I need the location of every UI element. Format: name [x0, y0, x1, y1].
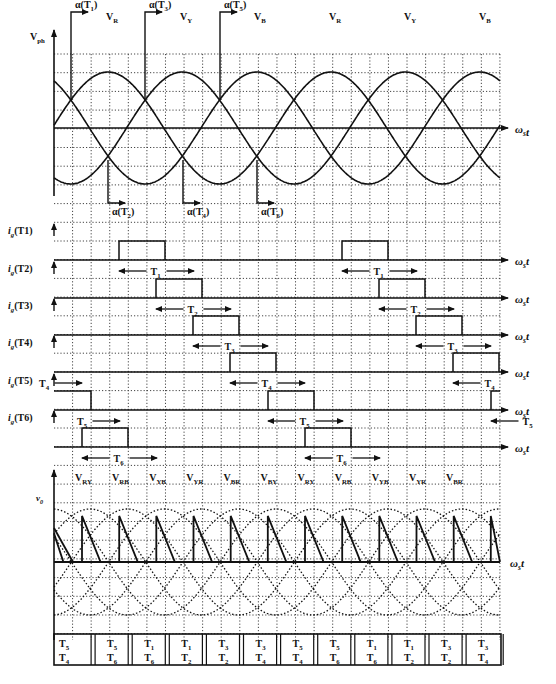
gate-pulse — [379, 279, 425, 298]
gate-time-axis-label: ωst — [515, 293, 530, 308]
gate-pulse — [453, 353, 499, 372]
conduction-label: T1 — [151, 266, 162, 279]
phase-label: VY — [180, 11, 192, 24]
output-time-axis-label: ωst — [510, 557, 525, 572]
gate-pulse — [230, 353, 276, 372]
table-cell-bottom: T6 — [367, 652, 378, 665]
firing-angle-label: α(T5) — [224, 0, 246, 12]
line-voltage-label: VYB — [149, 472, 166, 485]
gate-pulse — [416, 316, 462, 335]
table-cell-top: T1 — [367, 638, 378, 651]
gate-pulse — [491, 391, 500, 410]
line-voltage-label: VRB — [335, 472, 352, 485]
table-cell-top: T3 — [478, 638, 489, 651]
table-cell-bottom: T4 — [256, 652, 267, 665]
gate-pulse — [342, 241, 388, 260]
table-cell-bottom: T6 — [144, 652, 155, 665]
phase-label: VB — [479, 11, 491, 24]
table-cell-bottom: T2 — [218, 652, 229, 665]
phase-label: VR — [329, 11, 341, 24]
conduction-label: T4 — [485, 378, 496, 391]
line-voltage-label: VBR — [446, 472, 463, 485]
conduction-label: T3 — [225, 341, 236, 354]
line-voltage-label: VYR — [186, 472, 203, 485]
conduction-label: T6 — [114, 453, 125, 466]
conduction-label: T2 — [411, 304, 422, 317]
conduction-table-frame — [54, 634, 501, 665]
gate-row-label: ig(T2) — [8, 263, 33, 276]
table-cell-top: T3 — [256, 638, 267, 651]
output-voltage-segment — [54, 528, 73, 562]
table-cell-bottom: T2 — [441, 652, 452, 665]
gate-pulse — [193, 316, 239, 335]
table-cell-top: T5 — [293, 638, 304, 651]
conduction-label: T6 — [337, 453, 348, 466]
gate-row-label: ig(T6) — [8, 412, 33, 425]
gate-time-axis-label: ωst — [515, 330, 530, 345]
dotted-grid — [54, 54, 500, 640]
line-voltage-label: VRY — [298, 472, 315, 485]
v0-axis-label: v0 — [36, 493, 43, 505]
table-cell-top: T5 — [330, 638, 341, 651]
firing-angle-label: α(T6) — [261, 206, 283, 219]
phase-voltage-plot: VphωstVRVYVBVRVYVBα(T1)α(T3)α(T5)α(T2)α(… — [30, 0, 530, 219]
table-cell-top: T1 — [181, 638, 192, 651]
conduction-label: T4 — [262, 378, 273, 391]
gate-pulse-plot: ig(T1)ωstT1T1ig(T2)ωstT2T2ig(T3)ωstT3T3i… — [8, 224, 533, 466]
gate-time-axis-label: ωst — [515, 255, 530, 270]
gate-row-label: ig(T4) — [8, 337, 33, 350]
firing-angle-label: α(T4) — [187, 206, 209, 219]
conduction-label: T5 — [77, 416, 88, 429]
table-cell-bottom: T4 — [59, 652, 70, 665]
gate-pulse — [268, 391, 314, 410]
table-cell-bottom: T2 — [404, 652, 415, 665]
firing-angle-label: α(T1) — [75, 0, 97, 12]
output-voltage-waveform — [54, 516, 500, 562]
conduction-label: T5 — [300, 416, 311, 429]
conduction-label: T3 — [448, 341, 459, 354]
line-voltage-label: VYB — [372, 472, 389, 485]
phase-label: VY — [404, 11, 416, 24]
gate-row-label: ig(T1) — [8, 225, 33, 238]
waveform-figure: VphωstVRVYVBVRVYVBα(T1)α(T3)α(T5)α(T2)α(… — [0, 0, 556, 684]
time-axis-label: ωst — [515, 123, 530, 138]
table-cell-bottom: T6 — [107, 652, 118, 665]
gate-pulse — [119, 241, 165, 260]
table-cell-top: T5 — [59, 638, 70, 651]
line-voltage-label: VBY — [261, 472, 278, 485]
conduction-label: T1 — [374, 266, 385, 279]
firing-angle-arrow — [220, 12, 237, 100]
gate-time-axis-label: ωst — [515, 367, 530, 382]
gate-time-axis-label: ωst — [515, 442, 530, 457]
line-voltage-label: VBR — [223, 472, 240, 485]
table-cell-top: T1 — [404, 638, 415, 651]
firing-angle-label: α(T3) — [149, 0, 171, 12]
phase-label: VR — [106, 11, 118, 24]
line-voltage-label: VRB — [112, 472, 129, 485]
table-cell-bottom: T4 — [293, 652, 304, 665]
firing-angle-label: α(T2) — [112, 206, 134, 219]
phase-label: VB — [254, 11, 266, 24]
conduction-label: T4 — [39, 378, 50, 391]
line-voltage-label: VRY — [75, 472, 92, 485]
conduction-label: T2 — [188, 304, 199, 317]
table-cell-top: T5 — [107, 638, 118, 651]
vph-axis-label: Vph — [30, 31, 45, 44]
gate-row-label: ig(T5) — [8, 375, 33, 388]
conduction-label: T5 — [523, 416, 534, 429]
table-cell-top: T3 — [218, 638, 229, 651]
table-cell-top: T1 — [144, 638, 155, 651]
gate-pulse — [156, 279, 202, 298]
table-cell-bottom: T2 — [181, 652, 192, 665]
table-cell-bottom: T6 — [330, 652, 341, 665]
firing-angle-arrow — [145, 12, 162, 100]
conduction-table: T5T4T5T6T1T6T1T2T3T2T3T4T5T4T5T6T1T6T1T2… — [54, 634, 503, 665]
gate-pulse — [82, 428, 128, 447]
firing-angle-arrow — [71, 12, 88, 100]
gate-pulse — [305, 428, 351, 447]
table-cell-top: T3 — [441, 638, 452, 651]
gate-row-label: ig(T3) — [8, 300, 33, 313]
line-voltage-label: VYR — [409, 472, 426, 485]
table-cell-bottom: T4 — [478, 652, 489, 665]
